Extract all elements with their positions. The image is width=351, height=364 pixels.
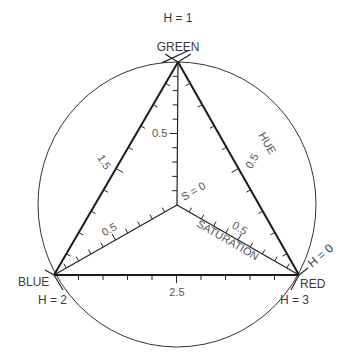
blue-vertex-label: BLUE: [18, 275, 49, 289]
tick-mark: [262, 250, 264, 254]
tick-mark: [66, 254, 70, 257]
red-hue-label-bottom: H = 3: [280, 293, 309, 307]
saturation-axes: [54, 62, 299, 275]
saturation-mid-label: 0.5: [230, 219, 249, 237]
color-triangle: [54, 62, 299, 275]
tick-mark: [104, 190, 108, 193]
tick-mark: [189, 208, 191, 212]
tick-mark: [116, 169, 123, 173]
tick-mark: [112, 234, 115, 240]
tick-mark: [258, 211, 262, 213]
red-hue-label-top: H = 0: [305, 241, 336, 271]
tick-mark: [198, 105, 202, 107]
tick-mark: [246, 190, 250, 192]
vertex-extensions: [45, 50, 308, 290]
hsi-color-triangle-diagram: H = 1 GREEN BLUE H = 2 RED H = 3 H = 0 S…: [0, 0, 351, 364]
tick-mark: [128, 147, 132, 150]
tick-mark: [287, 264, 289, 268]
tick-mark: [222, 147, 226, 149]
red-vertex-label: RED: [300, 277, 326, 291]
tick-mark: [125, 229, 127, 233]
tick-mark: [88, 250, 90, 254]
tick-mark: [138, 222, 140, 226]
tick-mark: [141, 126, 145, 129]
green-hue-label: H = 1: [163, 11, 192, 25]
left-edge-mid-label: 1.5: [95, 152, 113, 171]
tick-mark: [79, 232, 83, 235]
green-axis-mid-label: 0.5: [152, 127, 167, 139]
hue-axis-label: HUE: [257, 130, 279, 156]
hue-mid-label: 0.5: [243, 151, 261, 170]
tick-mark: [150, 215, 152, 219]
center-s-zero-label: S = 0: [179, 179, 208, 202]
tick-mark: [153, 105, 157, 108]
blue-hue-label: H = 2: [38, 293, 67, 307]
bottom-edge-mid-label: 2.5: [169, 286, 184, 298]
tick-mark: [101, 243, 103, 247]
tick-mark: [275, 257, 277, 261]
tick-mark: [91, 211, 95, 214]
green-vertex-label: GREEN: [157, 40, 200, 54]
tick-mark: [186, 83, 190, 85]
tick-mark: [232, 169, 239, 173]
tick-mark: [162, 208, 164, 212]
saturation-axis-label: SATURATION: [195, 217, 261, 262]
tick-mark: [166, 83, 170, 86]
tick-mark: [64, 264, 66, 268]
tick-mark: [210, 126, 214, 128]
blue-axis-mid-label: 0.5: [100, 220, 119, 238]
tick-mark: [283, 254, 287, 256]
tick-mark: [76, 257, 78, 261]
tick-mark: [270, 232, 274, 234]
